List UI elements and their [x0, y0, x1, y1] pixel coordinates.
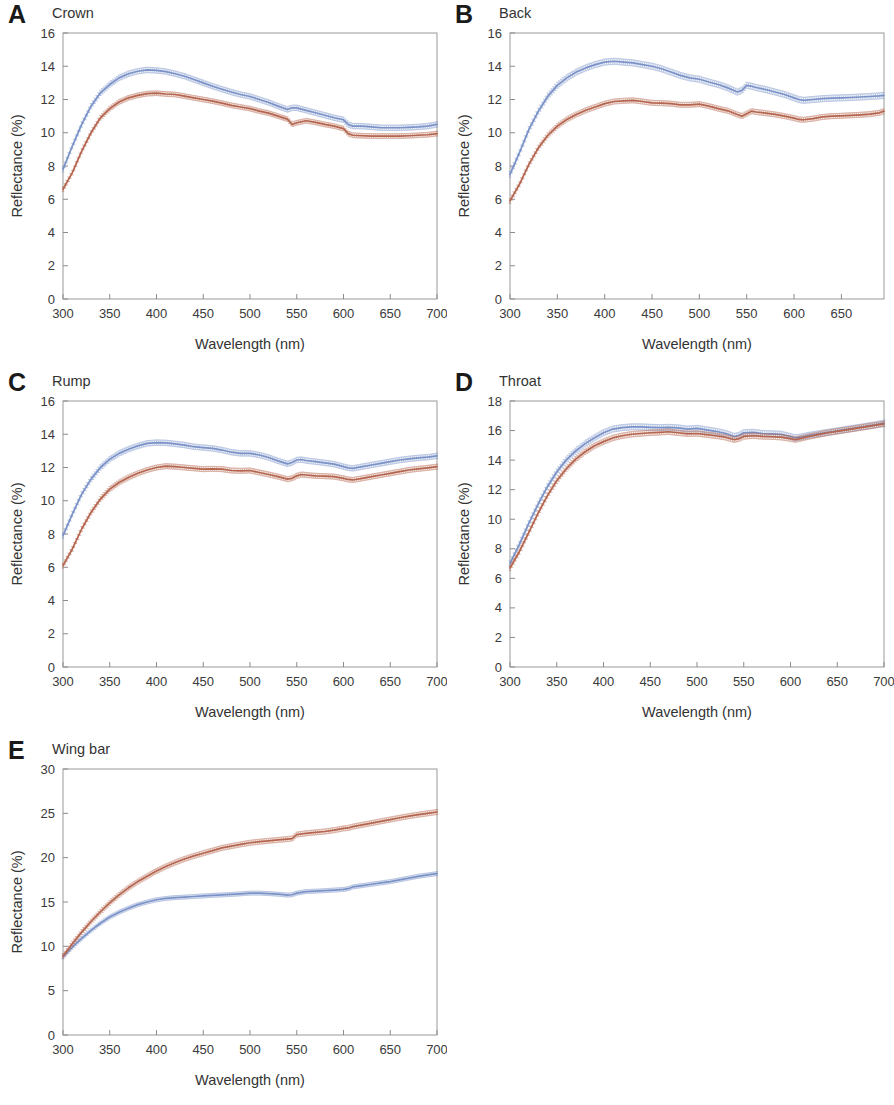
x-tick-label: 350: [99, 306, 121, 321]
x-tick-label: 500: [239, 306, 261, 321]
y-tick-label: 0: [495, 292, 502, 307]
x-tick-label: 450: [639, 674, 661, 689]
x-axis-title: Wavelength (nm): [195, 1072, 305, 1088]
panel-a-crown: A Crown 02468101214163003504004505005506…: [0, 0, 447, 368]
series-red: [509, 421, 886, 570]
y-tick-label: 2: [495, 258, 502, 273]
plot-crown: 0246810121416300350400450500550600650700…: [0, 0, 447, 368]
x-tick-label: 550: [736, 306, 758, 321]
y-tick-label: 8: [48, 527, 55, 542]
y-tick-label: 25: [41, 806, 55, 821]
x-tick-label: 600: [333, 1042, 355, 1057]
y-tick-label: 12: [488, 482, 502, 497]
y-tick-label: 5: [48, 983, 55, 998]
x-tick-label: 400: [593, 674, 615, 689]
y-axis-title: Reflectance (%): [9, 850, 25, 953]
y-axis-title: Reflectance (%): [9, 482, 25, 585]
x-tick-label: 650: [831, 306, 853, 321]
series-blue: [62, 67, 439, 172]
series-red: [62, 91, 439, 192]
plot-frame: [63, 769, 437, 1035]
x-tick-label: 350: [99, 674, 121, 689]
x-tick-label: 650: [379, 306, 401, 321]
reflectance-spectra-figure: A Crown 02468101214163003504004505005506…: [0, 0, 894, 1105]
x-tick-label: 650: [379, 674, 401, 689]
y-tick-label: 30: [41, 762, 55, 777]
plot-frame: [63, 401, 437, 667]
panel-b-back: B Back 024681012141630035040045050055060…: [447, 0, 894, 368]
y-axis-title: Reflectance (%): [456, 114, 472, 217]
x-tick-label: 450: [192, 674, 214, 689]
y-tick-label: 8: [48, 159, 55, 174]
x-axis-title: Wavelength (nm): [642, 336, 752, 352]
y-tick-label: 10: [488, 512, 502, 527]
x-tick-label: 600: [333, 674, 355, 689]
series-red: [62, 810, 439, 959]
x-tick-label: 700: [873, 674, 894, 689]
x-tick-label: 350: [99, 1042, 121, 1057]
x-tick-label: 650: [826, 674, 848, 689]
y-tick-label: 4: [48, 593, 55, 608]
y-tick-label: 4: [48, 225, 55, 240]
y-tick-label: 6: [48, 560, 55, 575]
y-tick-label: 6: [495, 571, 502, 586]
x-tick-label: 300: [52, 674, 74, 689]
y-tick-label: 16: [488, 423, 502, 438]
x-tick-label: 550: [286, 306, 308, 321]
y-tick-label: 2: [48, 626, 55, 641]
y-tick-label: 20: [41, 850, 55, 865]
y-tick-label: 2: [48, 258, 55, 273]
plot-frame: [63, 33, 437, 299]
x-tick-label: 350: [546, 674, 568, 689]
plot-throat: 0246810121416183003504004505005506006507…: [447, 368, 894, 736]
y-tick-label: 14: [41, 427, 55, 442]
x-tick-label: 450: [192, 306, 214, 321]
panel-d-throat: D Throat 0246810121416183003504004505005…: [447, 368, 894, 736]
x-tick-label: 450: [192, 1042, 214, 1057]
x-tick-label: 550: [286, 674, 308, 689]
y-tick-label: 4: [495, 225, 502, 240]
panel-c-rump: C Rump 024681012141630035040045050055060…: [0, 368, 447, 736]
x-axis-title: Wavelength (nm): [195, 336, 305, 352]
x-axis-title: Wavelength (nm): [642, 704, 752, 720]
y-tick-label: 6: [48, 192, 55, 207]
y-tick-label: 18: [488, 394, 502, 409]
x-tick-label: 450: [641, 306, 663, 321]
x-tick-label: 700: [426, 674, 447, 689]
y-tick-label: 10: [488, 125, 502, 140]
y-tick-label: 2: [495, 630, 502, 645]
x-tick-label: 300: [52, 306, 74, 321]
y-tick-label: 10: [41, 939, 55, 954]
y-tick-label: 12: [41, 460, 55, 475]
x-tick-label: 400: [146, 306, 168, 321]
y-axis-title: Reflectance (%): [456, 482, 472, 585]
y-tick-label: 0: [48, 660, 55, 675]
x-tick-label: 600: [783, 306, 805, 321]
x-tick-label: 500: [239, 674, 261, 689]
y-tick-label: 8: [495, 541, 502, 556]
x-tick-label: 650: [379, 1042, 401, 1057]
y-tick-label: 10: [41, 493, 55, 508]
panel-e-wing-bar: E Wing bar 05101520253030035040045050055…: [0, 736, 447, 1104]
x-tick-label: 400: [146, 674, 168, 689]
y-tick-label: 12: [41, 92, 55, 107]
y-tick-label: 14: [488, 59, 502, 74]
y-tick-label: 6: [495, 192, 502, 207]
x-tick-label: 700: [426, 1042, 447, 1057]
x-tick-label: 550: [286, 1042, 308, 1057]
series-blue: [62, 872, 439, 959]
series-red: [509, 98, 885, 204]
y-tick-label: 12: [488, 92, 502, 107]
x-tick-label: 300: [499, 306, 521, 321]
x-tick-label: 700: [426, 306, 447, 321]
plot-frame: [510, 401, 884, 667]
y-tick-label: 14: [41, 59, 55, 74]
y-tick-label: 0: [495, 660, 502, 675]
y-tick-label: 14: [488, 453, 502, 468]
x-tick-label: 500: [239, 1042, 261, 1057]
plot-wing-bar: 051015202530300350400450500550600650700W…: [0, 736, 447, 1104]
x-tick-label: 300: [499, 674, 521, 689]
y-axis-title: Reflectance (%): [9, 114, 25, 217]
x-tick-label: 350: [546, 306, 568, 321]
y-tick-label: 16: [41, 26, 55, 41]
